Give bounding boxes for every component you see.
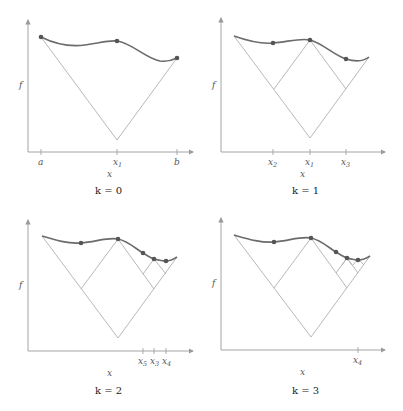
x-axis-label: x: [300, 367, 305, 377]
sample-point: [356, 258, 361, 263]
panel-caption: k = 3: [292, 385, 319, 396]
sample-point: [116, 237, 121, 242]
sample-point: [79, 241, 84, 246]
tick-label-x1: x1: [113, 157, 122, 169]
sample-point: [272, 240, 277, 245]
y-axis-label: f: [211, 80, 217, 90]
sample-point: [175, 56, 180, 61]
x-axis-label: x: [107, 368, 112, 378]
y-axis-label: f: [211, 278, 217, 288]
sample-point: [39, 35, 44, 40]
x-axis-label: x: [300, 169, 305, 179]
panel-caption: k = 2: [95, 385, 122, 396]
panel-k2: f x5 x3 x4 x k = 2: [18, 220, 193, 396]
tick-label-a: a: [38, 157, 43, 167]
lipschitz-lower-bound: [42, 236, 177, 338]
function-curve: [41, 37, 177, 61]
sample-point: [309, 236, 314, 241]
sample-point: [115, 39, 120, 44]
panel-caption: k = 0: [95, 185, 122, 196]
sample-point: [344, 57, 349, 62]
tick-label-x1: x1: [305, 157, 314, 169]
function-curve: [42, 236, 177, 261]
tick-label-b: b: [174, 157, 180, 167]
tick-label-x4: x4: [353, 355, 362, 367]
lipschitz-lower-bound: [41, 37, 177, 140]
panel-k3: f x4 x k = 3: [211, 218, 385, 396]
sample-point: [164, 259, 169, 264]
sample-point: [141, 251, 146, 256]
sample-point: [271, 41, 276, 46]
tick-label-x3: x3: [150, 356, 159, 368]
y-axis-label: f: [18, 80, 24, 90]
tick-label-x4: x4: [162, 356, 171, 368]
tick-label-x3: x3: [341, 157, 350, 169]
x-axis-label: x: [107, 169, 112, 179]
function-curve: [234, 36, 369, 61]
y-axis-label: f: [18, 280, 24, 290]
tick-label-x2: x2: [268, 157, 277, 169]
sample-point: [334, 250, 339, 255]
panel-k1: f x2 x1 x3 x k = 1: [211, 18, 385, 196]
panel-caption: k = 1: [292, 185, 319, 196]
sample-point: [308, 38, 313, 43]
tick-label-x5: x5: [138, 356, 147, 368]
function-curve: [234, 235, 370, 260]
sample-point: [152, 257, 157, 262]
panel-k0: f a x1 b x k = 0: [18, 20, 193, 196]
sample-point: [345, 256, 350, 261]
